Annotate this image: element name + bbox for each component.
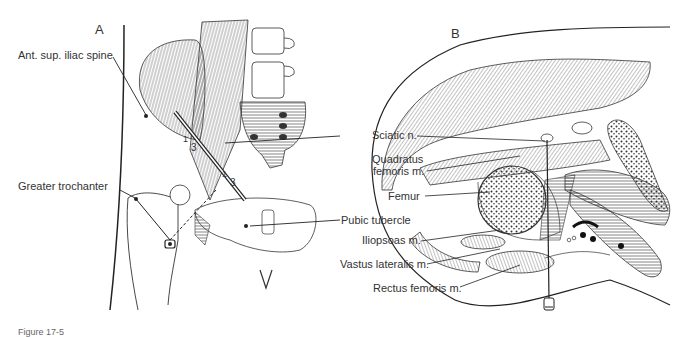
label-greater-trochanter: Greater trochanter [18,180,108,192]
panel-a-drawing [110,20,340,310]
label-iliopsoas: Iliopsoas m. [362,234,421,246]
fraction-numerator-2: 1 [222,168,227,180]
fraction-denominator-2: 3 [230,177,236,189]
panel-a-letter: A [95,22,104,37]
label-ant-sup-iliac-spine: Ant. sup. iliac spine [18,49,113,61]
label-femur: Femur [388,190,420,202]
label-quadratus-line1: Quadratus [372,153,423,165]
label-vastus-lateralis: Vastus lateralis m. [340,258,429,270]
label-rectus-femoris: Rectus femoris m. [373,282,462,294]
label-quadratus-line2: femoris m. [373,165,424,177]
fraction-denominator-1: 3 [191,142,197,154]
label-sciatic-n: Sciatic n. [372,129,417,141]
figure-caption: Figure 17-5 [18,327,64,337]
label-pubic-tubercle: Pubic tubercle [341,214,411,226]
fraction-numerator-1: 1 [183,133,188,145]
panel-b-letter: B [451,26,460,41]
